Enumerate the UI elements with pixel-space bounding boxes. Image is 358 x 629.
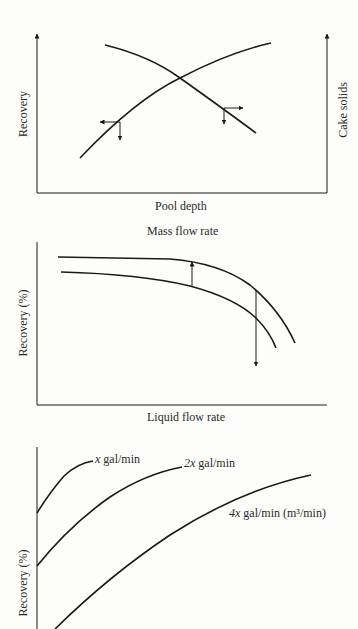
curve-label-2x-gal-min: 2x gal/min [184, 457, 235, 469]
x-axis-label-liquid-flow-rate: Liquid flow rate [147, 411, 225, 423]
y-axis-label-cake-solids: Cake solids [337, 75, 349, 145]
curve-label-unit: gal/min (m³/min) [240, 506, 326, 520]
chart-pool-depth [37, 34, 327, 193]
figure-canvas [0, 0, 358, 629]
curve-label-var: 2x [184, 456, 195, 470]
lower-curve [61, 272, 276, 348]
curve-label-4x-gal-min: 4x gal/min (m³/min) [229, 507, 326, 519]
curve-label-x-gal-min: x gal/min [95, 453, 140, 465]
recovery-curve [80, 43, 271, 158]
y-axis-label-recovery: Recovery [17, 84, 29, 144]
chart-liquid-flow-rate [37, 242, 327, 405]
x-axis-label-pool-depth: Pool depth [155, 200, 207, 212]
chart-title-mass-flow-rate: Mass flow rate [147, 225, 218, 237]
curve-label-unit: gal/min [195, 456, 235, 470]
curve-x-gal-min [37, 461, 93, 513]
y-axis-label-recovery-percent: Recovery (%) [17, 283, 29, 363]
curve-label-unit: gal/min [100, 452, 140, 466]
curve-4x-gal-min [55, 475, 311, 629]
curve-label-var: 4x [229, 506, 240, 520]
y-axis-label-recovery-percent: Recovery (%) [17, 543, 29, 623]
chart-feed-rates [37, 447, 311, 629]
upper-curve [58, 257, 295, 343]
cake-solids-curve [105, 45, 256, 133]
